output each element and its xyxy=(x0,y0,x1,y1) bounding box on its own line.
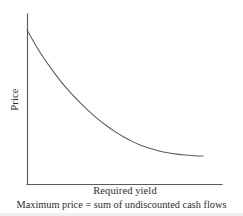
plot-area xyxy=(0,0,243,216)
x-axis-label: Required yield xyxy=(27,185,223,196)
figure-caption: Maximum price = sum of undiscounted cash… xyxy=(0,199,243,210)
bottom-edge-band xyxy=(0,213,243,216)
figure-container: Price Required yield Maximum price = sum… xyxy=(0,0,243,216)
price-yield-curve xyxy=(27,30,203,156)
